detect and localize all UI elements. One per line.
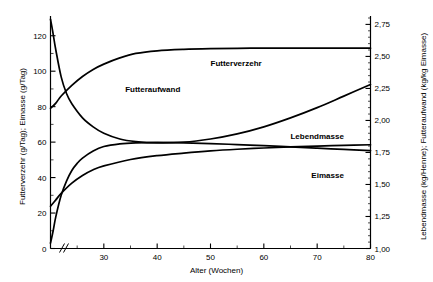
x-tick-label: 60 (259, 253, 268, 262)
y-right-tick-label: 1,00 (375, 245, 391, 254)
y-right-tick-label: 1,75 (375, 148, 391, 157)
y-left-tick-label: 40 (38, 174, 47, 183)
y-left-tick-label: 60 (38, 138, 47, 147)
x-tick-label: 80 (366, 253, 375, 262)
series-label-eimasse: Eimasse (311, 171, 344, 180)
tick-labels-group: 3040506070800204060801001201,001,251,501… (33, 20, 390, 261)
chart-plot-area: 3040506070800204060801001201,001,251,501… (0, 0, 433, 282)
chart-container: 3040506070800204060801001201,001,251,501… (0, 0, 433, 282)
series-label-futterverzehr: Futterverzehr (211, 59, 262, 68)
y-right-tick-label: 1,50 (375, 180, 391, 189)
x-tick-label: 30 (99, 253, 108, 262)
series-labels-group: FutterverzehrFutteraufwandLebendmasseEim… (125, 59, 344, 180)
series-curve-futteraufwand (51, 19, 371, 143)
y-axis-right-title: Lebendmasse (kg/Henne); Futteraufwand (k… (419, 27, 428, 247)
series-label-futteraufwand: Futteraufwand (125, 85, 180, 94)
y-right-tick-label: 2,25 (375, 84, 391, 93)
x-tick-label: 70 (313, 253, 322, 262)
y-right-tick-label: 1,25 (375, 212, 391, 221)
y-right-tick-label: 2,50 (375, 52, 391, 61)
series-curve-futterverzehr (51, 48, 371, 108)
x-tick-label: 50 (206, 253, 215, 262)
y-left-tick-label: 20 (38, 209, 47, 218)
x-axis-title: Alter (Wochen) (0, 266, 433, 275)
y-right-tick-label: 2,00 (375, 116, 391, 125)
y-left-tick-label: 120 (33, 32, 47, 41)
y-left-tick-label: 80 (38, 103, 47, 112)
y-right-tick-label: 2,75 (375, 20, 391, 29)
x-tick-label: 40 (153, 253, 162, 262)
y-axis-left-title: Futterverzehr (g/Tag); Eimasse (g/Tag) (18, 27, 27, 247)
y-left-tick-label: 100 (33, 67, 47, 76)
y-left-tick-label: 0 (42, 245, 47, 254)
series-label-lebendmasse: Lebendmasse (290, 132, 344, 141)
series-curve-eimasse (51, 142, 371, 243)
